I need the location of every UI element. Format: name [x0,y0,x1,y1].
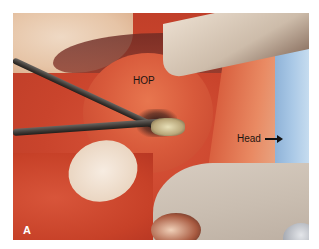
head-orientation-label: Head [237,134,283,144]
retractor-opening [151,213,201,240]
arrow-right-icon [265,135,283,143]
surgical-photo [13,13,309,240]
hop-label: HOP [133,76,155,86]
head-label-text: Head [237,134,261,144]
panel-label: A [23,225,31,236]
instrument-tip [151,118,185,136]
